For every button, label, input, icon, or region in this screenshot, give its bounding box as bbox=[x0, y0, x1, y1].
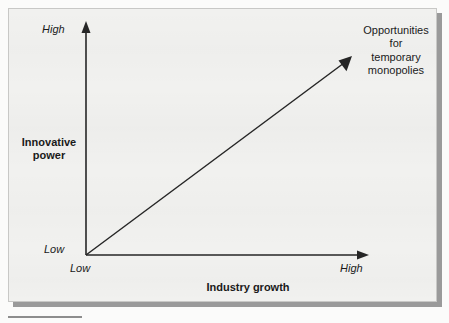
annotation-line-2: for bbox=[355, 37, 437, 50]
annotation-line-1: Opportunities bbox=[355, 24, 437, 37]
x-axis-high-label: High bbox=[340, 262, 363, 275]
bottom-rule-mark bbox=[8, 316, 82, 318]
figure-screenshot: High Low Low High Innovative power Indus… bbox=[0, 0, 449, 323]
x-axis-title: Industry growth bbox=[178, 281, 318, 294]
trend-arrowhead bbox=[339, 56, 353, 71]
y-axis-high-label: High bbox=[42, 23, 65, 36]
annotation-line-3: temporary bbox=[355, 51, 437, 64]
x-axis-arrowhead bbox=[357, 251, 369, 260]
annotation-line-4: monopolies bbox=[355, 64, 437, 77]
y-axis-low-label: Low bbox=[44, 243, 64, 256]
y-axis-title: Innovative power bbox=[17, 136, 81, 162]
trend-arrow-line bbox=[86, 63, 344, 255]
y-axis-arrowhead bbox=[82, 21, 91, 33]
x-axis-low-label: Low bbox=[70, 262, 90, 275]
trend-arrow-annotation: Opportunities for temporary monopolies bbox=[355, 24, 437, 78]
